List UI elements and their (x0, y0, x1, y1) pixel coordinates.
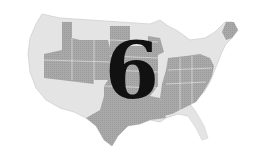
light-region-florida (188, 112, 208, 140)
us-map: 6 (0, 0, 261, 155)
map-number-label: 6 (104, 36, 160, 106)
